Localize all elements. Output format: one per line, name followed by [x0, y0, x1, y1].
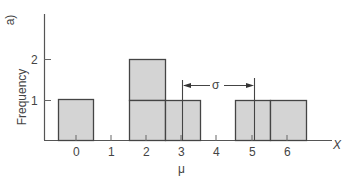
histogram-chart: a) Frequency 2 1 0 1 2 3 4 5 6 μ σ X [0, 0, 342, 181]
panel-label: a) [4, 15, 16, 26]
bar-x5 [236, 101, 271, 141]
bar-x2-lower [130, 101, 166, 141]
x-tick-label-6: 6 [284, 146, 291, 158]
x-tick-label-0: 0 [73, 146, 80, 158]
arrowhead-left-icon [183, 83, 191, 88]
mu-label: μ [178, 163, 185, 175]
x-axis-title: X [333, 139, 341, 151]
x-tick-label-5: 5 [249, 146, 256, 158]
y-axis-title: Frequency [15, 67, 29, 127]
y-tick-label-2: 2 [31, 54, 38, 66]
bar-x2-upper [130, 60, 166, 101]
arrowhead-right-icon [246, 83, 254, 88]
bar-x5-5 [271, 101, 307, 141]
x-tick-label-2: 2 [143, 146, 150, 158]
sigma-label: σ [212, 79, 219, 91]
y-tick-label-1: 1 [31, 95, 38, 107]
x-tick-label-4: 4 [213, 146, 220, 158]
bar-x0 [59, 100, 94, 141]
x-tick-label-3: 3 [178, 146, 185, 158]
x-tick-label-1: 1 [108, 146, 115, 158]
